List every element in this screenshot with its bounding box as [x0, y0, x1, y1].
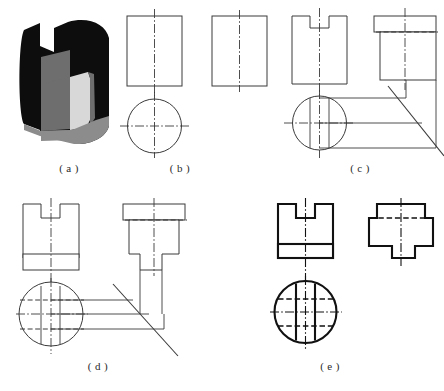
panel-e-svg [272, 196, 442, 358]
caption-panel-d: ( d ) [68, 360, 128, 372]
caption-panel-a: ( a ) [10, 162, 128, 174]
side-view-body-c [380, 32, 436, 80]
panel-e-result [272, 196, 442, 358]
panel-d-step3 [18, 196, 218, 358]
pictorial-svg [10, 8, 128, 158]
pictorial-face-mid-lower [41, 77, 70, 131]
panel-b-svg [124, 8, 284, 158]
caption-panel-b: ( b ) [150, 162, 210, 174]
miter-line-d [113, 284, 178, 356]
panel-c-svg [288, 6, 444, 160]
panel-a-pictorial [10, 8, 128, 158]
panel-d-svg [18, 196, 218, 358]
technical-drawing-figure: ( a ) ( b ) [0, 0, 444, 391]
pictorial-base-front [41, 130, 72, 141]
pictorial-highlight [70, 72, 90, 130]
caption-panel-c: ( c ) [330, 162, 390, 174]
panel-b-step1 [124, 8, 284, 158]
caption-panel-e: ( e ) [300, 360, 360, 372]
panel-c-step2 [288, 6, 444, 160]
